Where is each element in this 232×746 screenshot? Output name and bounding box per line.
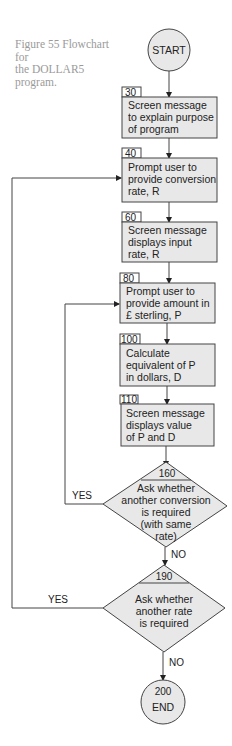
node-text: rate) [155, 530, 177, 542]
node-text: of program [128, 123, 179, 135]
node-text: equivalent of P [126, 359, 195, 371]
edge-label-no: NO [169, 657, 184, 668]
arrow-160-yes-to-80 [65, 304, 119, 504]
node-text: displays value [126, 419, 192, 431]
start-terminal: START [148, 29, 190, 71]
node-text: Calculate [126, 347, 170, 359]
step-number: 40 [125, 148, 137, 159]
process-80: 80 Prompt user to provide amount in £ st… [120, 273, 215, 324]
node-text: of P and D [126, 431, 176, 443]
arrow-190-yes-to-40 [12, 178, 121, 608]
node-text: rate, R [128, 185, 160, 197]
node-text: Screen message [128, 99, 207, 111]
step-number: 110 [121, 394, 137, 405]
step-number: 30 [125, 87, 137, 98]
node-text: (with same [141, 518, 192, 530]
node-text: another conversion [121, 494, 210, 506]
node-text: provide amount in [126, 297, 210, 309]
end-terminal: 200 END [141, 680, 185, 724]
decision-160: 160 Ask whether another conversion is re… [103, 462, 227, 547]
node-text: is required [139, 617, 188, 629]
node-text: displays input [128, 236, 192, 248]
node-text: another rate [136, 605, 193, 617]
node-text: to explain purpose [128, 111, 214, 123]
step-number: 80 [123, 273, 135, 284]
node-text: Prompt user to [128, 161, 197, 173]
node-text: provide conversion [128, 173, 216, 185]
step-number: 200 [155, 686, 172, 697]
node-text: in dollars, D [126, 371, 182, 383]
node-text: Screen message [128, 224, 207, 236]
start-label: START [152, 44, 186, 56]
node-text: Ask whether [137, 482, 195, 494]
edge-label-no: NO [171, 549, 186, 560]
node-text: rate, R [128, 248, 160, 260]
node-text: is required [141, 506, 190, 518]
edge-label-yes: YES [48, 594, 68, 605]
decision-190: 190 Ask whether another rate is required [103, 565, 225, 652]
end-label: END [152, 701, 175, 713]
step-number: 160 [159, 468, 176, 479]
node-text: Screen message [126, 407, 205, 419]
node-text: Prompt user to [126, 285, 195, 297]
flowchart: START 30 Screen message to explain purpo… [0, 0, 232, 746]
step-number: 190 [156, 571, 173, 582]
step-number: 60 [125, 212, 137, 223]
node-text: Ask whether [135, 593, 193, 605]
edge-label-yes: YES [72, 490, 92, 501]
node-text: £ sterling, P [126, 309, 181, 321]
step-number: 100 [121, 334, 138, 345]
